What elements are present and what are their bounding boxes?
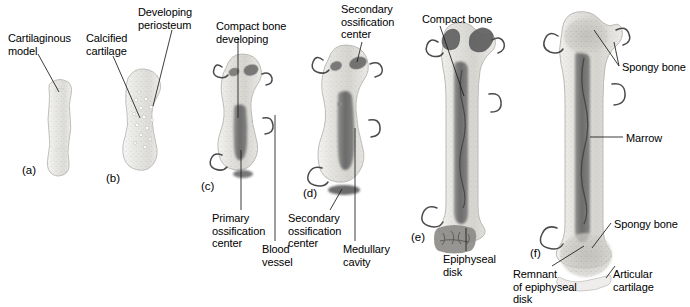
label-epiphyseal-disk: Epiphyseal disk [443, 253, 496, 278]
panel-letter-d: (d) [303, 187, 317, 199]
label-secondary-ossification-center-top: Secondary ossification center [341, 3, 394, 41]
label-secondary-ossification-center-bottom: Secondary ossification center [288, 212, 341, 250]
panel-letter-b: (b) [106, 172, 120, 184]
label-compact-bone-developing: Compact bone developing [216, 20, 286, 45]
panel-c-primary-ossification [210, 54, 273, 178]
panel-a-cartilage-model [47, 80, 71, 177]
panel-letter-e: (e) [411, 231, 425, 243]
panel-letter-c: (c) [201, 180, 214, 192]
leader-developing-periosteum [153, 30, 172, 106]
panel-letter-a: (a) [22, 164, 36, 176]
label-cartilaginous-model: Cartilaginous model [8, 32, 71, 57]
endochondral-ossification-figure: Cartilaginous model Calcified cartilage … [0, 0, 690, 307]
panel-e-epiphyseal-disk [422, 23, 505, 254]
label-medullary-cavity: Medullary cavity [343, 243, 390, 268]
label-compact-bone: Compact bone [422, 13, 492, 26]
label-marrow: Marrow [626, 132, 662, 145]
panel-letter-f: (f) [530, 247, 541, 259]
label-remnant-of-epiphyseal-disk: Remnant of epiphyseal disk [513, 268, 577, 306]
label-articular-cartilage: Articular cartilage [613, 268, 654, 293]
label-spongy-bone-bottom: Spongy bone [614, 218, 678, 231]
label-primary-ossification-center: Primary ossification center [212, 212, 265, 250]
label-calcified-cartilage: Calcified cartilage [86, 32, 127, 57]
label-spongy-bone-top: Spongy bone [622, 61, 686, 74]
label-developing-periosteum: Developing periosteum [138, 6, 192, 31]
panel-b-calcified-cartilage [123, 69, 161, 170]
panel-d-secondary-ossification [308, 45, 383, 195]
